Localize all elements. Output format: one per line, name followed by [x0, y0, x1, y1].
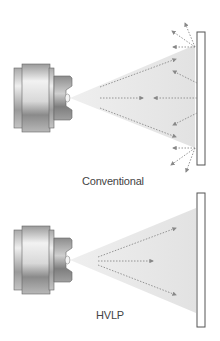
spray-diagram-canvas	[0, 0, 220, 341]
spray-gun-nozzle-icon	[14, 64, 72, 132]
target-panel-icon	[197, 193, 205, 327]
spray-cone	[70, 208, 196, 313]
spray-gun-nozzle-icon	[14, 226, 72, 294]
conventional-label: Conventional	[82, 175, 144, 187]
conventional-diagram	[14, 23, 205, 172]
hvlp-label: HVLP	[96, 309, 124, 321]
target-panel-icon	[197, 32, 205, 165]
hvlp-diagram	[14, 193, 205, 327]
spray-cone	[70, 45, 195, 148]
